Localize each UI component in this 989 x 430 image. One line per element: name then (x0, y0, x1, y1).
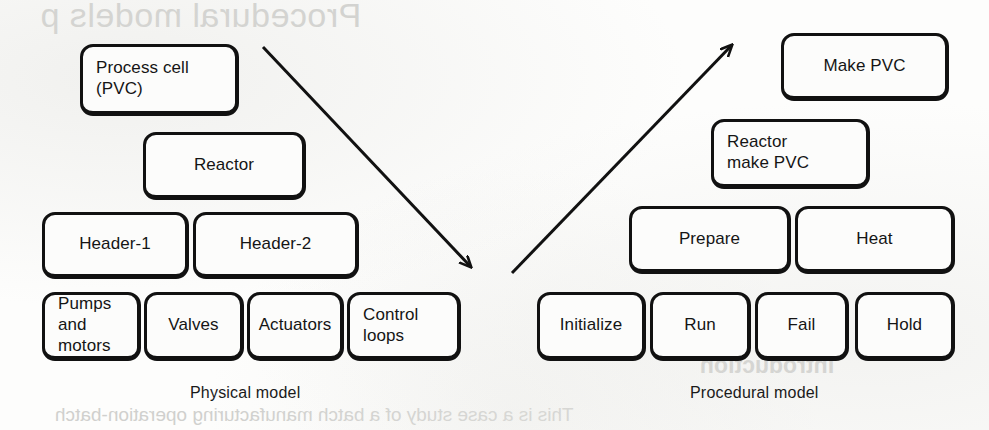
node-hold-label: Hold (881, 315, 928, 336)
node-reactor[interactable]: Reactor (143, 132, 306, 200)
node-fail[interactable]: Fail (755, 292, 849, 361)
bleed-through-body-bottom: This is a case study of a batch manufact… (55, 404, 574, 426)
bleed-through-heading-top: Procedural models p (40, 0, 361, 35)
diagram-page: Procedural models p Introduction This is… (0, 0, 989, 430)
node-valves[interactable]: Valves (144, 292, 244, 361)
node-initialize[interactable]: Initialize (537, 292, 646, 361)
caption-physical-model: Physical model (190, 384, 300, 402)
node-process-cell-label: Process cell(PVC) (83, 58, 195, 99)
node-make-pvc[interactable]: Make PVC (781, 33, 949, 101)
node-header-1-label: Header-1 (73, 234, 157, 255)
node-heat-label: Heat (850, 229, 898, 250)
node-prepare-label: Prepare (673, 229, 746, 250)
node-actuators-label: Actuators (253, 315, 338, 336)
node-make-pvc-label: Make PVC (817, 56, 911, 77)
node-pumps-and-motors[interactable]: Pumpsandmotors (42, 292, 141, 361)
node-header-1[interactable]: Header-1 (42, 212, 189, 279)
node-header-2-label: Header-2 (234, 234, 318, 255)
node-hold[interactable]: Hold (855, 292, 955, 361)
node-reactor-make-pvc-label: Reactormake PVC (714, 132, 815, 173)
node-header-2[interactable]: Header-2 (193, 212, 359, 279)
node-run-label: Run (678, 315, 722, 336)
node-actuators[interactable]: Actuators (247, 292, 344, 361)
node-prepare[interactable]: Prepare (629, 206, 791, 274)
caption-procedural-model: Procedural model (690, 384, 819, 402)
node-reactor-label: Reactor (188, 155, 260, 176)
node-heat[interactable]: Heat (795, 206, 955, 274)
node-control-loops[interactable]: Controlloops (347, 292, 461, 361)
node-fail-label: Fail (782, 315, 822, 336)
node-initialize-label: Initialize (554, 315, 628, 336)
node-valves-label: Valves (162, 315, 224, 336)
node-run[interactable]: Run (650, 292, 751, 361)
node-pumps-and-motors-label: Pumpsandmotors (45, 294, 117, 356)
node-reactor-make-pvc[interactable]: Reactormake PVC (711, 119, 870, 189)
node-process-cell[interactable]: Process cell(PVC) (80, 44, 239, 116)
node-control-loops-label: Controlloops (350, 305, 425, 346)
